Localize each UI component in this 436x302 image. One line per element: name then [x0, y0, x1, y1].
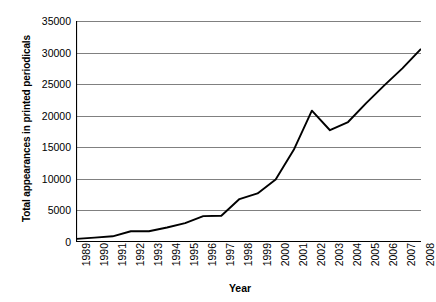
- x-axis-tick-label: 1990: [99, 243, 110, 283]
- y-axis-tick-label: 5000: [1, 205, 71, 215]
- x-axis-tick-label: 1991: [117, 243, 128, 283]
- x-axis-tick-label: 1993: [153, 243, 164, 283]
- y-axis-tick-label: 20000: [1, 111, 71, 121]
- x-axis-tick-label: 1989: [81, 243, 92, 283]
- x-axis-tick-label: 2000: [280, 243, 291, 283]
- x-axis-tick-label: 1999: [262, 243, 273, 283]
- axis-lines: [76, 21, 421, 242]
- x-axis-tick-label: 1995: [189, 243, 200, 283]
- plot-area: [76, 21, 421, 242]
- x-axis-tick-label: 1998: [243, 243, 254, 283]
- x-axis-tick-label: 2005: [370, 243, 381, 283]
- x-axis-tick-label: 2001: [298, 243, 309, 283]
- x-axis-tick-label: 1992: [135, 243, 146, 283]
- x-axis-title: Year: [150, 282, 330, 294]
- y-axis-tick-label: 35000: [1, 16, 71, 26]
- y-axis-tick-label: 30000: [1, 48, 71, 58]
- x-axis-tick-label: 1996: [207, 243, 218, 283]
- x-axis-tick-label: 2007: [406, 243, 417, 283]
- y-axis-tick-labels: 05000100001500020000250003000035000: [0, 0, 74, 302]
- line-chart-svg: [76, 21, 421, 242]
- y-axis-tick-label: 25000: [1, 79, 71, 89]
- x-axis-tick-labels: 1989199019911992199319941995199619971998…: [76, 243, 421, 285]
- x-axis-tick-label: 2002: [316, 243, 327, 283]
- gridlines: [76, 22, 421, 211]
- y-axis-tick-label: 0: [1, 237, 71, 247]
- x-axis-tick-label: 2008: [425, 243, 436, 283]
- x-axis-tick-label: 2003: [334, 243, 345, 283]
- x-axis-tick-label: 2004: [352, 243, 363, 283]
- x-axis-tick-label: 2006: [388, 243, 399, 283]
- y-axis-tick-label: 15000: [1, 142, 71, 152]
- x-axis-tick-label: 1994: [171, 243, 182, 283]
- x-axis-tick-label: 1997: [225, 243, 236, 283]
- y-axis-tick-label: 10000: [1, 174, 71, 184]
